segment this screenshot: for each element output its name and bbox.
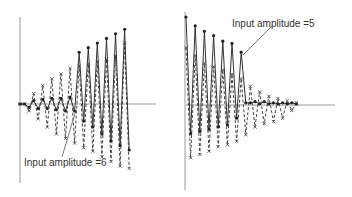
- dot-marker: [263, 100, 266, 103]
- dot-marker: [87, 46, 90, 49]
- right-panel: Input amplitude =5: [184, 12, 335, 190]
- dot-marker: [50, 97, 53, 100]
- dot-marker: [78, 51, 81, 54]
- dot-marker: [249, 101, 252, 104]
- dot-marker: [37, 107, 40, 110]
- dot-marker: [64, 109, 67, 112]
- dot-marker: [203, 30, 206, 33]
- dot-marker: [198, 130, 201, 133]
- dot-marker: [105, 37, 108, 40]
- dot-marker: [46, 107, 49, 110]
- dot-marker: [295, 102, 298, 105]
- dot-marker: [18, 102, 21, 105]
- dot-marker: [235, 117, 238, 120]
- dot-marker: [23, 102, 26, 105]
- left-solid-series: [18, 28, 130, 152]
- dot-marker: [244, 101, 247, 104]
- dot-marker: [59, 97, 62, 100]
- dot-marker: [123, 28, 126, 31]
- dot-marker: [212, 34, 215, 37]
- solid-line: [20, 29, 129, 150]
- dot-marker: [276, 102, 279, 105]
- dot-marker: [91, 125, 94, 128]
- dot-marker: [286, 102, 289, 105]
- dot-marker: [230, 42, 233, 45]
- dot-marker: [100, 132, 103, 135]
- dot-marker: [109, 139, 112, 142]
- dot-marker: [194, 24, 197, 27]
- dot-marker: [189, 132, 192, 135]
- dot-marker: [253, 100, 256, 103]
- dot-marker: [96, 41, 99, 44]
- figure: Input amplitude =6 Input amplitude =5: [0, 0, 352, 197]
- dot-marker: [290, 101, 293, 104]
- dot-marker: [207, 128, 210, 131]
- dot-marker: [226, 123, 229, 126]
- left-annotation-label: Input amplitude =6: [24, 157, 107, 168]
- right-annotation-leader: [243, 26, 272, 55]
- dot-marker: [82, 120, 85, 123]
- dot-marker: [41, 98, 44, 101]
- dot-marker: [240, 51, 243, 54]
- dot-marker: [114, 32, 117, 35]
- dot-marker: [68, 96, 71, 99]
- dot-marker: [184, 15, 187, 18]
- right-annotation-label: Input amplitude =5: [232, 18, 315, 29]
- right-solid-series: [184, 15, 298, 135]
- dot-marker: [28, 106, 31, 109]
- dot-marker: [128, 148, 131, 151]
- dot-marker: [258, 102, 261, 105]
- left-panel: Input amplitude =6: [18, 17, 156, 183]
- solid-line: [186, 17, 296, 134]
- dot-marker: [32, 99, 35, 102]
- dot-marker: [281, 101, 284, 104]
- dot-marker: [55, 108, 58, 111]
- dot-marker: [221, 40, 224, 43]
- dot-marker: [267, 102, 270, 105]
- dot-marker: [217, 125, 220, 128]
- dot-marker: [272, 101, 275, 104]
- dot-marker: [119, 144, 122, 147]
